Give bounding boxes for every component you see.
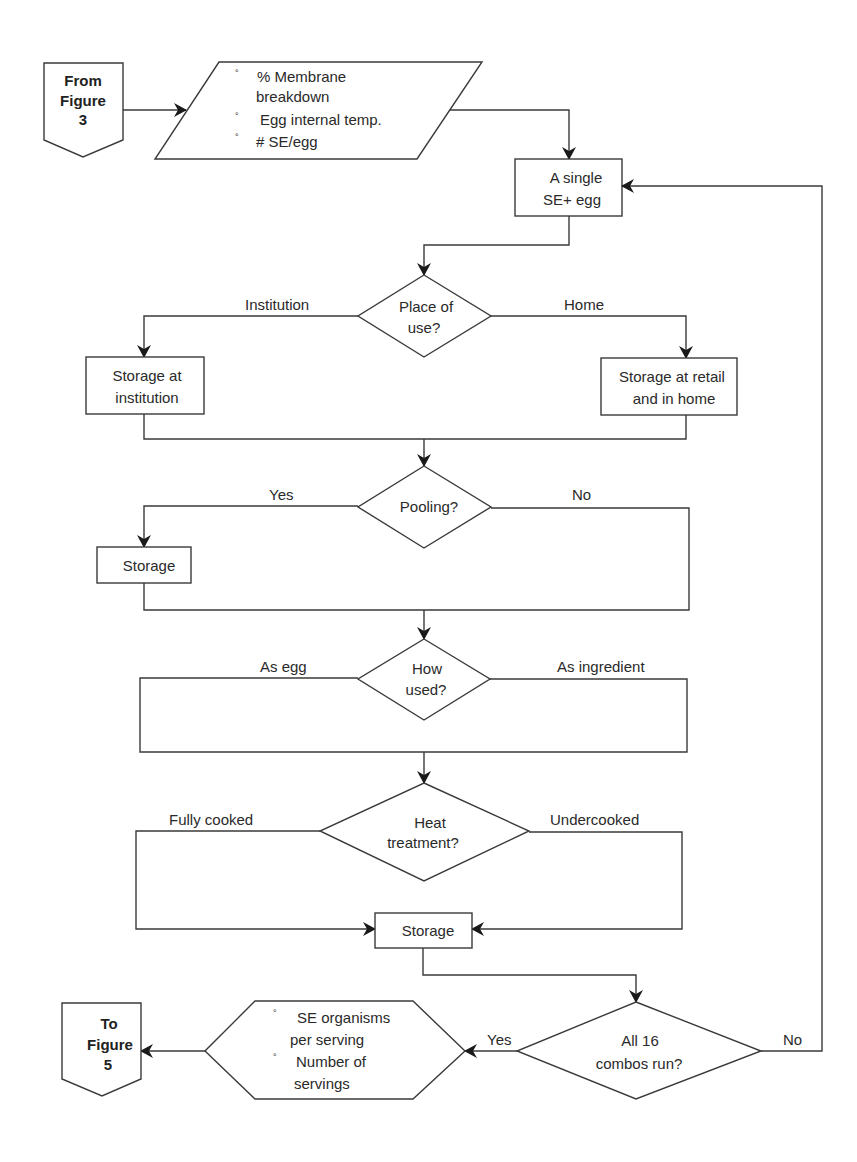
connector-label: 3 [79,111,87,128]
bullet-icon: ° [235,132,239,142]
place-of-use-decision: Place of use? [358,275,491,357]
box-label: institution [115,389,178,406]
input-item: breakdown [256,88,329,105]
box-label: Storage [123,557,176,574]
box-label: Storage at [112,367,182,384]
box-label: and in home [633,390,716,407]
output-item: SE organisms [297,1009,390,1026]
box-label: Storage [402,922,455,939]
connector-label: Figure [87,1036,133,1053]
branch-label-home: Home [564,296,604,313]
connector-label: To [100,1015,117,1032]
bullet-icon: ° [235,68,239,78]
final-storage-box: Storage [375,913,472,948]
bullet-icon: ° [273,1008,277,1018]
from-figure-3-connector: From Figure 3 [44,63,123,157]
branch-label-no: No [783,1031,802,1048]
storage-institution-box: Storage at institution [86,357,204,414]
branch-label-as-egg: As egg [260,658,307,675]
input-parallelogram: ° % Membrane breakdown ° Egg internal te… [155,62,482,159]
decision-label: All 16 [621,1032,659,1049]
pooling-decision: Pooling? [358,466,491,548]
arrow-connector [491,316,686,358]
branch-label-no: No [572,486,591,503]
arrow-connector [144,506,358,547]
bullet-icon: ° [273,1052,277,1062]
output-item: servings [294,1075,350,1092]
box-label: A single [550,169,603,186]
box-label: SE+ egg [543,191,601,208]
decision-label: Place of [399,298,454,315]
arrow-connector [450,110,569,159]
branch-label-institution: Institution [245,296,309,313]
decision-label: combos run? [596,1055,683,1072]
pool-storage-box: Storage [97,547,191,583]
merge-line [144,414,686,439]
branch-label-undercooked: Undercooked [550,811,639,828]
arrow-connector [423,948,636,1002]
decision-label: Pooling? [400,498,458,515]
input-item: % Membrane [257,68,346,85]
output-item: per serving [290,1031,364,1048]
arrow-connector [424,216,569,275]
output-item: Number of [296,1053,367,1070]
heat-treatment-decision: Heat treatment? [320,783,529,881]
to-figure-5-connector: To Figure 5 [62,1003,141,1096]
branch-label-yes: Yes [487,1031,511,1048]
decision-label: Heat [414,814,447,831]
branch-label-fully-cooked: Fully cooked [169,811,253,828]
all-combos-decision: All 16 combos run? [517,1002,761,1099]
input-item: Egg internal temp. [260,111,382,128]
decision-label: treatment? [387,834,459,851]
connector-label: From [64,72,102,89]
arrow-connector [472,832,682,929]
decision-label: use? [408,319,441,336]
arrow-connector [136,831,375,929]
how-used-decision: How used? [358,639,490,720]
connector-label: Figure [60,92,106,109]
flowchart-canvas: From Figure 3 ° % Membrane breakdown ° E… [0,0,857,1162]
branch-label-yes: Yes [269,486,293,503]
connector-label: 5 [104,1056,112,1073]
bullet-icon: ° [235,111,239,121]
arrow-connector [144,316,358,357]
output-hexagon: ° SE organisms per serving ° Number of s… [205,1001,465,1099]
storage-retail-home-box: Storage at retail and in home [601,358,737,415]
decision-label: How [412,660,442,677]
single-egg-box: A single SE+ egg [515,159,622,216]
decision-label: used? [406,681,447,698]
box-label: Storage at retail [619,368,725,385]
branch-label-as-ingredient: As ingredient [557,658,645,675]
input-item: # SE/egg [256,133,318,150]
